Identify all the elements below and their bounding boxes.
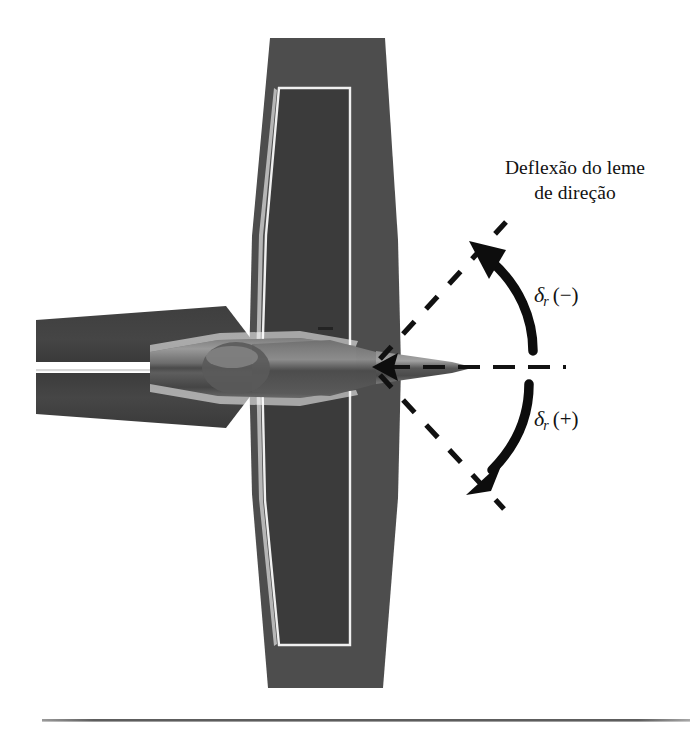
rudder-deflection-diagram bbox=[0, 0, 699, 732]
caption-line-2: de direção bbox=[452, 180, 698, 205]
delta-sign-positive: (+) bbox=[553, 407, 579, 431]
delta-sign-negative: (−) bbox=[553, 283, 579, 307]
rudder-panel-upper bbox=[262, 88, 350, 367]
arrow-positive-head-icon bbox=[466, 461, 503, 495]
label-delta-r-positive: δr(+) bbox=[534, 406, 579, 434]
arrow-positive-curve bbox=[492, 384, 529, 470]
fuselage-bullet-highlight bbox=[206, 346, 258, 368]
delta-subscript-negative: r bbox=[543, 294, 548, 309]
delta-subscript-positive: r bbox=[543, 418, 548, 433]
figure-caption: Deflexão do leme de direção bbox=[452, 155, 698, 205]
rudder-panel-lower bbox=[262, 367, 350, 645]
fin-surface-tick bbox=[318, 327, 333, 330]
fuselage-group bbox=[150, 331, 470, 406]
label-delta-r-negative: δr(−) bbox=[534, 282, 579, 310]
figure-page: Deflexão do leme de direção δr(−) δr(+) bbox=[0, 0, 699, 732]
arrow-negative-curve bbox=[492, 262, 533, 351]
fin-root-fairing bbox=[252, 340, 376, 396]
bottom-rule bbox=[42, 719, 690, 722]
caption-line-1: Deflexão do leme bbox=[452, 155, 698, 180]
